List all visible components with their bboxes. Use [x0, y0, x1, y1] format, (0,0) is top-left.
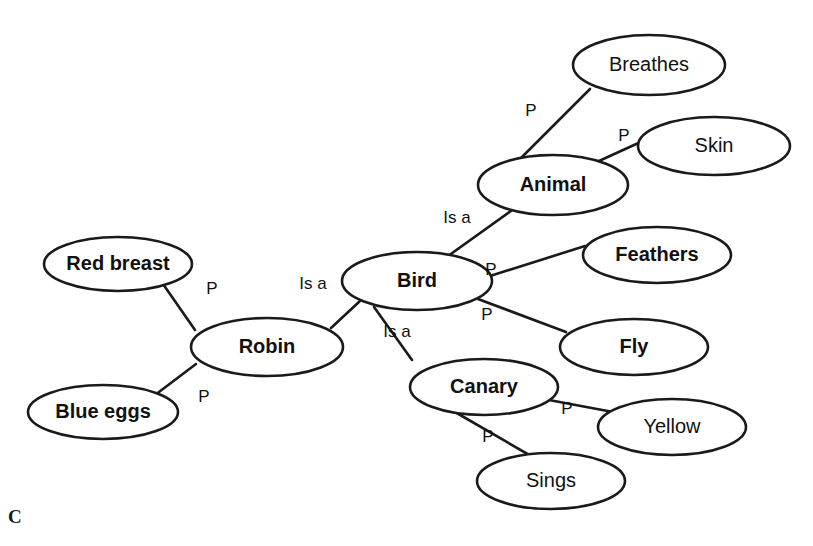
edge-robin-bird [331, 301, 360, 328]
node-label-canary: Canary [450, 375, 519, 397]
node-breathes[interactable]: Breathes [573, 35, 725, 95]
node-label-robin: Robin [239, 335, 296, 357]
edge-label-robin-bird: Is a [299, 274, 327, 293]
node-blue-eggs[interactable]: Blue eggs [28, 385, 178, 439]
node-bird[interactable]: Bird [342, 252, 492, 310]
node-sings[interactable]: Sings [477, 453, 625, 509]
edge-robin-blueeggs [155, 364, 196, 395]
edge-label-canary-yellow: P [561, 399, 572, 418]
edge-label-bird-fly: P [481, 305, 492, 324]
node-label-breathes: Breathes [609, 53, 689, 75]
node-fly[interactable]: Fly [560, 319, 708, 375]
node-label-red-breast: Red breast [66, 252, 170, 274]
node-canary[interactable]: Canary [410, 359, 558, 415]
edge-animal-breathes [519, 89, 590, 160]
node-label-yellow: Yellow [643, 415, 701, 437]
node-label-feathers: Feathers [615, 243, 698, 265]
semantic-network-diagram: BreathesSkinAnimalFeathersBirdRed breast… [0, 0, 813, 546]
edge-label-canary-bird: Is a [383, 322, 411, 341]
edge-robin-redbreast [163, 284, 195, 330]
node-yellow[interactable]: Yellow [598, 399, 746, 455]
node-label-sings: Sings [526, 469, 576, 491]
edge-label-bird-feathers: P [485, 260, 496, 279]
node-red-breast[interactable]: Red breast [44, 237, 192, 291]
edge-label-robin-blueeggs: P [198, 387, 209, 406]
node-label-fly: Fly [620, 335, 650, 357]
edge-label-animal-skin: P [618, 126, 629, 145]
edge-bird-feathers [490, 246, 585, 276]
node-animal[interactable]: Animal [478, 155, 628, 215]
node-label-skin: Skin [695, 134, 734, 156]
edge-label-robin-redbreast: P [206, 279, 217, 298]
panel-label: C [8, 506, 22, 527]
edge-label-animal-breathes: P [525, 101, 536, 120]
node-robin[interactable]: Robin [191, 318, 343, 376]
edge-label-canary-sings: P [482, 427, 493, 446]
node-label-blue-eggs: Blue eggs [55, 400, 151, 422]
node-label-animal: Animal [520, 173, 587, 195]
node-feathers[interactable]: Feathers [583, 227, 731, 283]
nodes-layer: BreathesSkinAnimalFeathersBirdRed breast… [28, 35, 790, 509]
edge-canary-yellow [549, 400, 613, 412]
node-label-bird: Bird [397, 269, 437, 291]
edge-label-bird-animal: Is a [443, 208, 471, 227]
network-canvas: BreathesSkinAnimalFeathersBirdRed breast… [0, 0, 813, 546]
node-skin[interactable]: Skin [638, 117, 790, 175]
